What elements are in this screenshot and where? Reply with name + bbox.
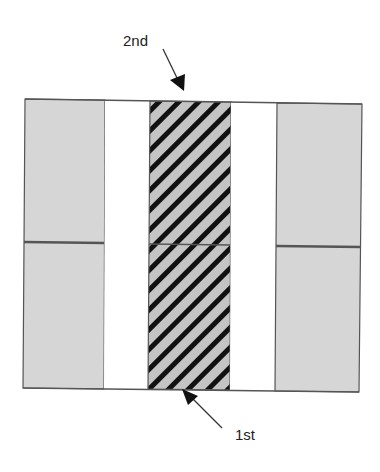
hatched-divider — [149, 244, 231, 245]
left-grey-panel — [23, 99, 105, 389]
right-gap — [230, 102, 277, 391]
label-second: 2nd — [123, 32, 148, 49]
right-panel-divider — [276, 246, 361, 247]
arrow-second — [163, 49, 185, 91]
diagram-canvas — [0, 0, 380, 472]
right-grey-panel — [275, 103, 362, 392]
hatched-center-column — [148, 101, 231, 390]
label-first: 1st — [235, 426, 255, 443]
left-gap — [104, 100, 150, 389]
arrow-first — [182, 389, 222, 428]
left-panel-divider — [24, 242, 104, 243]
